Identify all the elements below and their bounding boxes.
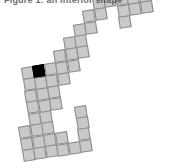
grid-cell — [47, 85, 60, 98]
grid-cell — [76, 116, 89, 129]
grid-cell — [118, 15, 131, 28]
grid-cell — [49, 97, 62, 110]
grid-cell — [94, 8, 107, 21]
grid-cell — [74, 105, 87, 118]
grid-cell — [57, 72, 70, 85]
grid-shape-canvas — [0, 0, 170, 168]
grid-cell — [76, 46, 89, 59]
grid-cell — [41, 122, 54, 135]
grid-cell — [79, 139, 92, 152]
grid-cell — [55, 131, 68, 144]
figure-root: Figure 1: an interior shape — [0, 0, 170, 168]
caption-strip: Figure 1: an interior shape — [0, 0, 170, 6]
grid-cell — [84, 21, 97, 34]
grid-cell — [67, 59, 80, 72]
figure-caption: Figure 1: an interior shape — [4, 0, 122, 5]
